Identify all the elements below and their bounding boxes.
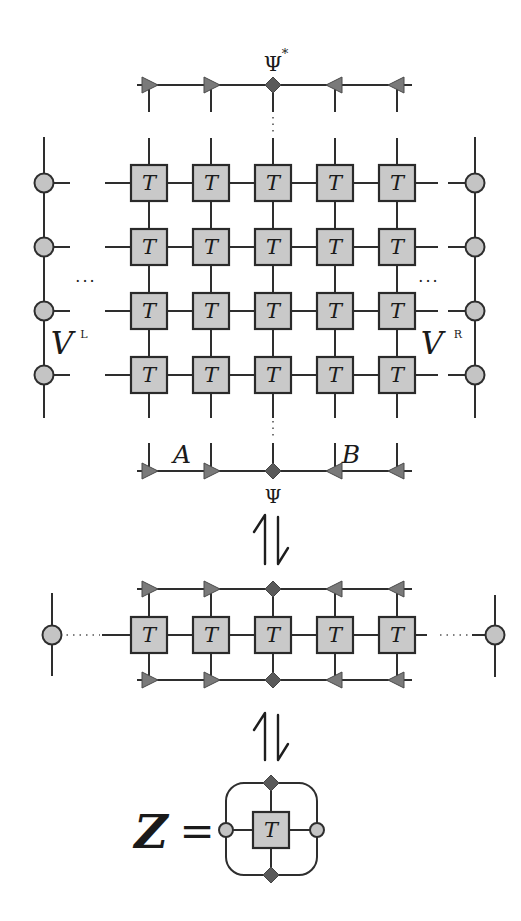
mps-diamond-icon: [265, 581, 281, 597]
environment-tensor: [466, 302, 485, 321]
tensor-label: T: [142, 363, 158, 387]
tensor-label: T: [266, 623, 282, 647]
tensor-t: T: [255, 293, 291, 329]
right-environment-tensor: [310, 823, 324, 837]
right-env-label: V: [421, 325, 447, 361]
left-environment-tensor: [43, 626, 62, 645]
environment-tensor: [35, 238, 54, 257]
environment-tensor: [35, 174, 54, 193]
tensor-t: T: [255, 165, 291, 201]
environment-tensor: [466, 238, 485, 257]
segment-b-label: B: [341, 440, 360, 469]
tensor-t: T: [193, 617, 229, 653]
tensor-t: T: [253, 812, 289, 848]
tensor-t: T: [193, 165, 229, 201]
tensor-label: T: [390, 235, 406, 259]
tensor-grid: TTTTTTTTTTTTTTTTTTTT: [105, 165, 438, 418]
left-environment-vl: [35, 137, 71, 418]
mps-diamond-icon: [265, 77, 281, 93]
mps-diamond-icon: [263, 775, 279, 791]
contracted-row-transfer-matrix: TTTTT: [43, 581, 505, 688]
tensor-t: T: [255, 229, 291, 265]
tensor-t: T: [193, 357, 229, 393]
partition-function-z: T: [219, 775, 324, 883]
tensor-t: T: [131, 293, 167, 329]
tensor-t: T: [379, 617, 415, 653]
tensor-t: T: [379, 165, 415, 201]
tensor-label: T: [328, 235, 344, 259]
top-mps-psi-star: [137, 77, 412, 165]
right-env-superscript: R: [454, 328, 463, 341]
partition-z-label: Z: [132, 805, 169, 859]
harpoon-up: [254, 515, 265, 564]
environment-tensor: [35, 366, 54, 385]
tensor-t: T: [131, 165, 167, 201]
right-ellipsis: ···: [418, 272, 439, 291]
tensor-label: T: [204, 363, 220, 387]
tensor-t: T: [379, 357, 415, 393]
segment-a-label: A: [171, 440, 191, 469]
harpoon-up: [254, 713, 265, 760]
tensor-label: T: [204, 299, 220, 323]
tensor-label: T: [390, 299, 406, 323]
tensor-t: T: [317, 617, 353, 653]
equals-sign: =: [179, 807, 214, 856]
tensor-t: T: [255, 357, 291, 393]
tensor-label: T: [142, 171, 158, 195]
harpoon-down: [278, 715, 288, 760]
tensor-t: T: [131, 617, 167, 653]
left-ellipsis: ···: [75, 272, 96, 291]
tensor-label: T: [390, 363, 406, 387]
tensor-label: T: [390, 623, 406, 647]
equivalence-harpoon-icon: [254, 713, 288, 760]
tensor-label: T: [142, 235, 158, 259]
right-environment-tensor: [486, 626, 505, 645]
tensor-label: T: [328, 363, 344, 387]
tensor-label: T: [142, 623, 158, 647]
equivalence-harpoon-icon: [254, 515, 288, 564]
left-env-label: V: [51, 325, 77, 361]
tensor-t: T: [193, 293, 229, 329]
harpoon-down: [278, 517, 288, 564]
psi-label: Ψ: [265, 485, 282, 507]
environment-tensor: [466, 366, 485, 385]
tensor-t: T: [317, 165, 353, 201]
left-env-superscript: L: [80, 328, 88, 341]
tensor-label: T: [266, 363, 282, 387]
tensor-label: T: [328, 171, 344, 195]
mps-diamond-icon: [265, 463, 281, 479]
environment-tensor: [35, 302, 54, 321]
tensor-network-diagram: TTTTTTTTTTTTTTTTTTTT TTTTT T Ψ * Ψ A B V…: [0, 0, 521, 921]
mps-diamond-icon: [265, 672, 281, 688]
tensor-label: T: [266, 235, 282, 259]
tensor-label: T: [390, 171, 406, 195]
tensor-t: T: [317, 229, 353, 265]
tensor-label: T: [204, 623, 220, 647]
tensor-label: T: [266, 171, 282, 195]
tensor-label: T: [204, 235, 220, 259]
tensor-label: T: [266, 299, 282, 323]
tensor-label: T: [264, 818, 280, 842]
left-environment-tensor: [219, 823, 233, 837]
tensor-t: T: [131, 357, 167, 393]
tensor-label: T: [328, 623, 344, 647]
tensor-label: T: [142, 299, 158, 323]
psi-star-label: Ψ: [264, 52, 282, 76]
tensor-label: T: [204, 171, 220, 195]
tensor-t: T: [317, 293, 353, 329]
tensor-t: T: [379, 229, 415, 265]
environment-tensor: [466, 174, 485, 193]
tensor-t: T: [317, 357, 353, 393]
tensor-t: T: [255, 617, 291, 653]
tensor-t: T: [193, 229, 229, 265]
tensor-t: T: [131, 229, 167, 265]
tensor-label: T: [328, 299, 344, 323]
psi-star-superscript: *: [282, 46, 289, 61]
right-environment-vr: [448, 137, 485, 418]
mps-diamond-icon: [263, 867, 279, 883]
tensor-t: T: [379, 293, 415, 329]
